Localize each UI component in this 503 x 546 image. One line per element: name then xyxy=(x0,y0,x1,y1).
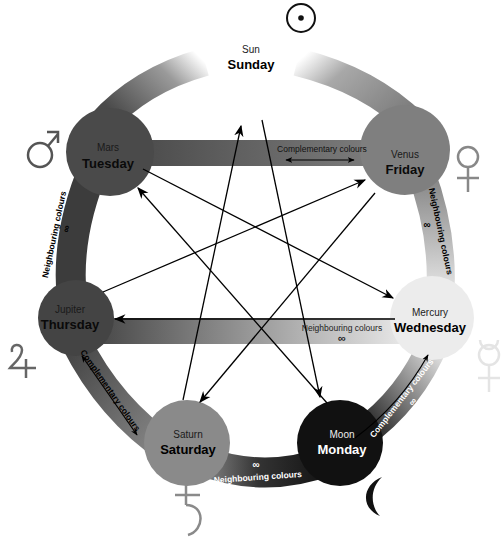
mars-day-label: Tuesday xyxy=(82,156,135,171)
mercury-symbol-icon xyxy=(478,340,500,392)
mercury-planet-label: Mercury xyxy=(412,307,448,318)
mercury-circle xyxy=(390,276,474,360)
arrow-thursday-friday xyxy=(103,180,365,292)
sun-day-label: Sunday xyxy=(228,57,276,72)
sun-symbol-icon xyxy=(287,4,315,32)
diagram-canvas: Complementary colours Neighbouring colou… xyxy=(0,0,503,546)
infinity-jupiter-mercury: ∞ xyxy=(338,332,346,344)
moon-planet-label: Moon xyxy=(329,429,354,440)
moon-symbol-icon xyxy=(366,477,382,516)
arrow-saturday-sunday xyxy=(183,126,241,400)
arrow-friday-saturday xyxy=(200,193,375,402)
jupiter-symbol-icon xyxy=(10,345,36,378)
saturn-symbol-icon xyxy=(175,483,201,535)
venus-symbol-icon xyxy=(457,147,479,192)
arrow-tuesday-wednesday xyxy=(143,169,393,298)
infinity-venus-mercury: ∞ xyxy=(423,219,430,230)
infinity-saturn-moon: ∞ xyxy=(252,459,259,470)
label-moon-mercury: Complementary colours xyxy=(368,357,436,440)
saturn-planet-label: Saturn xyxy=(173,429,202,440)
mercury-day-label: Wednesday xyxy=(394,320,467,335)
venus-planet-label: Venus xyxy=(391,149,419,160)
label-mars-venus: Complementary colours xyxy=(277,144,367,154)
mars-symbol-icon xyxy=(28,132,58,167)
saturn-day-label: Saturday xyxy=(160,442,216,457)
jupiter-planet-label: Jupiter xyxy=(55,304,86,315)
moon-day-label: Monday xyxy=(317,442,367,457)
sun-planet-label: Sun xyxy=(242,44,260,55)
jupiter-day-label: Thursday xyxy=(41,317,100,332)
mars-planet-label: Mars xyxy=(97,142,119,153)
venus-day-label: Friday xyxy=(385,162,425,177)
